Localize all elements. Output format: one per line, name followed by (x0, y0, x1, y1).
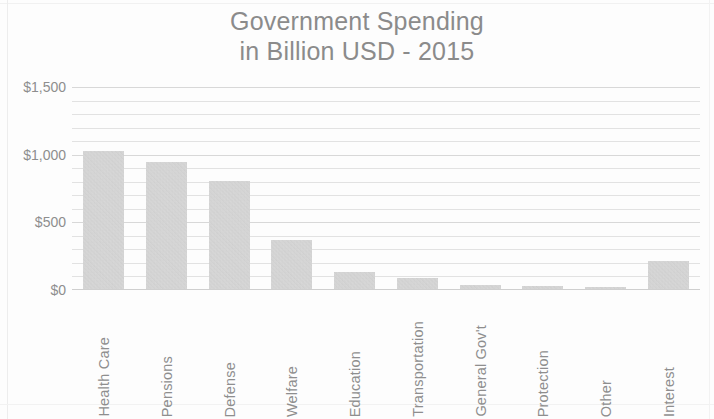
bar[interactable] (334, 272, 375, 289)
gridline-major (72, 155, 700, 156)
x-axis-tick-label: Interest (648, 292, 689, 417)
x-axis-tick-label: Welfare (271, 292, 312, 417)
gridline-major (72, 87, 700, 88)
x-axis-tick-label-text: Other (598, 380, 614, 417)
bar[interactable] (648, 261, 689, 289)
y-axis-tick-label: $500 (0, 215, 66, 229)
x-axis-tick-label-text: Interest (661, 367, 677, 417)
gridline-minor (72, 141, 700, 142)
x-axis-tick-label: Health Care (83, 292, 124, 417)
x-axis-baseline (72, 289, 700, 290)
chart-title-line-1: Government Spending (0, 6, 714, 36)
x-axis-tick-label-text: Protection (535, 350, 551, 417)
x-axis-tick-label-text: Transportation (410, 321, 426, 417)
bar[interactable] (209, 181, 250, 289)
bar[interactable] (397, 278, 438, 289)
x-axis-tick-label-text: Pensions (159, 356, 175, 417)
x-axis-tick-label-text: Health Care (96, 337, 112, 417)
x-axis-tick-label-text: Education (347, 351, 363, 417)
x-axis-tick-label: Other (585, 292, 626, 417)
chart-title: Government Spending in Billion USD - 201… (0, 6, 714, 66)
bar[interactable] (585, 287, 626, 289)
y-axis-tick-label: $1,500 (0, 80, 66, 94)
y-axis-tick-label: $0 (0, 283, 66, 297)
plot-area (72, 87, 700, 290)
y-axis: $0$500$1,000$1,500 (0, 87, 66, 290)
y-axis-tick-label: $1,000 (0, 148, 66, 162)
x-axis-tick-label: Defense (209, 292, 250, 417)
gridline-minor (72, 101, 700, 102)
bar[interactable] (83, 151, 124, 289)
x-axis-tick-label: General Gov't (460, 292, 501, 417)
x-axis-tick-label-text: General Gov't (473, 325, 489, 417)
gridline-minor (72, 128, 700, 129)
x-axis: Health CarePensionsDefenseWelfareEducati… (72, 292, 700, 419)
bar[interactable] (460, 285, 501, 289)
x-axis-tick-label: Pensions (146, 292, 187, 417)
x-axis-tick-label: Education (334, 292, 375, 417)
gridline-minor (72, 114, 700, 115)
bar[interactable] (522, 286, 563, 289)
x-axis-tick-label: Transportation (397, 292, 438, 417)
x-axis-tick-label-text: Defense (222, 362, 238, 417)
chart-page: Government Spending in Billion USD - 201… (0, 0, 714, 419)
bar[interactable] (146, 162, 187, 289)
x-axis-tick-label-text: Welfare (284, 366, 300, 417)
scan-artifact-top (0, 3, 714, 4)
chart-title-line-2: in Billion USD - 2015 (0, 36, 714, 66)
bar[interactable] (271, 240, 312, 289)
x-axis-tick-label: Protection (522, 292, 563, 417)
